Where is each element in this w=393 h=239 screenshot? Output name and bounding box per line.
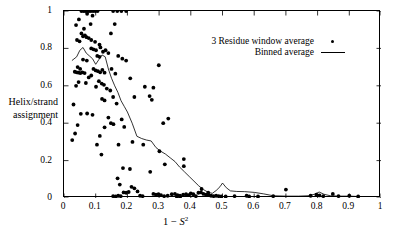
data-point	[122, 125, 126, 129]
data-point	[108, 89, 112, 93]
data-point	[94, 85, 98, 89]
data-point	[128, 76, 132, 80]
data-point	[116, 54, 120, 58]
y-tick-label: 0.6	[18, 80, 52, 90]
data-point	[106, 51, 110, 55]
legend-entry-line: Binned average	[186, 47, 346, 58]
data-point	[70, 138, 74, 142]
x-tick-label: 0.3	[143, 201, 173, 211]
data-point	[121, 166, 125, 170]
y-tick-label: 0	[18, 192, 52, 202]
data-point	[102, 83, 106, 87]
data-point	[284, 188, 288, 192]
x-axis-label: 1 − S2	[163, 216, 283, 228]
binned-average-line	[72, 47, 367, 196]
data-point	[233, 194, 237, 198]
data-point	[200, 187, 204, 191]
data-point	[109, 32, 113, 36]
x-tick-label: 1	[365, 201, 393, 211]
data-point	[89, 22, 93, 26]
data-point	[110, 67, 114, 71]
legend-marker-dot	[320, 36, 346, 47]
data-point	[89, 74, 93, 78]
data-point	[314, 193, 318, 197]
data-point	[105, 87, 109, 91]
chart-legend: 3 Residue window average Binned average	[186, 36, 346, 58]
data-point	[111, 11, 115, 13]
data-point	[91, 113, 95, 117]
data-point	[162, 194, 166, 198]
data-point	[271, 194, 275, 198]
data-point	[347, 194, 351, 198]
data-point	[148, 170, 152, 174]
data-point	[119, 194, 123, 198]
data-point	[79, 112, 83, 116]
data-point	[81, 58, 85, 62]
data-point	[148, 94, 152, 98]
data-point	[82, 27, 86, 31]
data-point	[206, 191, 210, 195]
data-point	[161, 121, 165, 125]
data-point	[85, 112, 89, 116]
data-point	[141, 194, 145, 198]
data-point	[119, 11, 123, 13]
data-point	[120, 57, 124, 61]
data-point	[117, 143, 121, 147]
y-axis-label-line1: Helix/strand	[0, 96, 58, 109]
legend-label-scatter: 3 Residue window average	[211, 36, 320, 47]
data-point	[76, 123, 80, 127]
x-tick-label: 0.4	[175, 201, 205, 211]
data-point	[73, 132, 77, 136]
data-point	[98, 55, 102, 59]
data-point	[113, 22, 117, 26]
data-point	[115, 11, 119, 13]
data-point	[89, 38, 93, 42]
data-point	[95, 143, 99, 147]
x-tick-label: 0.1	[80, 201, 110, 211]
data-point	[120, 118, 124, 122]
x-tick-label: 0	[48, 201, 78, 211]
x-tick-label: 0.5	[207, 201, 237, 211]
data-point	[182, 164, 186, 168]
data-point	[72, 103, 76, 107]
data-point	[74, 84, 78, 88]
legend-entry-scatter: 3 Residue window average	[186, 36, 346, 47]
x-tick-label: 0.7	[270, 201, 300, 211]
data-point	[91, 14, 95, 18]
data-point	[337, 194, 341, 198]
data-point	[99, 46, 103, 50]
data-point	[163, 162, 167, 166]
data-point	[85, 12, 89, 16]
data-point	[309, 194, 313, 198]
data-point	[224, 195, 228, 198]
data-point	[106, 116, 110, 120]
data-point	[78, 67, 82, 71]
data-point	[84, 81, 88, 85]
data-point	[132, 95, 136, 99]
data-point	[100, 153, 104, 157]
data-point	[150, 98, 154, 102]
data-point	[331, 192, 335, 196]
data-point	[151, 86, 155, 90]
data-point	[77, 18, 81, 22]
x-axis-label-superscript: 2	[185, 215, 189, 223]
data-point	[116, 176, 120, 180]
data-point	[182, 157, 186, 161]
data-point	[157, 63, 161, 67]
x-tick-label: 0.6	[238, 201, 268, 211]
data-point	[103, 98, 107, 102]
data-point	[74, 23, 78, 27]
x-tick-label: 0.8	[302, 201, 332, 211]
data-point	[111, 95, 115, 99]
data-point	[103, 125, 107, 129]
data-point	[104, 48, 108, 52]
data-point	[127, 190, 131, 194]
legend-marker-line	[320, 47, 346, 58]
data-point	[83, 71, 87, 75]
x-tick-label: 0.9	[333, 201, 363, 211]
data-point	[118, 183, 122, 187]
data-point	[113, 72, 117, 76]
data-point	[143, 85, 147, 89]
x-axis-label-prefix: 1 −	[163, 216, 179, 227]
data-point	[166, 194, 170, 198]
